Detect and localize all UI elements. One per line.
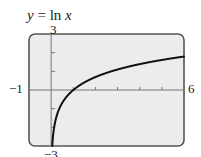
graphing-calculator-screen	[0, 0, 201, 157]
x-max-label: 6	[188, 82, 195, 95]
y-max-label: 3	[50, 23, 57, 36]
y-min-label: −3	[44, 148, 58, 157]
x-min-label: −1	[9, 82, 23, 95]
